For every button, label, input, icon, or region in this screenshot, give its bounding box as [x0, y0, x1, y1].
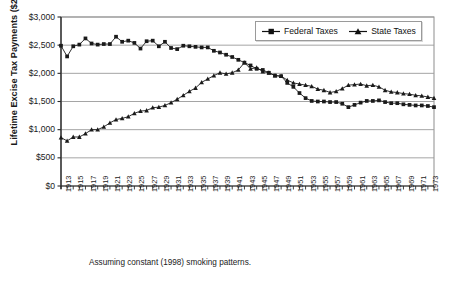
- x-axis-tick-label: 1939: [223, 176, 232, 192]
- x-axis-tick-label: 1919: [101, 176, 110, 192]
- legend-marker-square-icon: [261, 27, 281, 36]
- x-axis-tick-label: 1923: [125, 176, 134, 192]
- x-axis-tick-label: 1953: [309, 176, 318, 192]
- x-axis-tick-label: 1949: [284, 176, 293, 192]
- x-axis-tick-label: 1913: [64, 176, 73, 192]
- y-axis-tick-label: $2,500: [9, 40, 55, 50]
- chart-legend: Federal Taxes State Taxes: [255, 21, 422, 41]
- x-axis-tick-label: 1957: [333, 176, 342, 192]
- chart-caption: Assuming constant (1998) smoking pattern…: [0, 258, 340, 267]
- figure: Lifetime Excise Tax Payments ($2000) Fed…: [0, 0, 453, 281]
- x-axis-tick-label: 1927: [150, 176, 159, 192]
- x-axis-tick-label: 1929: [162, 176, 171, 192]
- x-axis-tick-label: 1937: [211, 176, 220, 192]
- x-axis-tick-label: 1933: [186, 176, 195, 192]
- x-axis-tick-label: 1925: [137, 176, 146, 192]
- legend-marker-triangle-icon: [348, 27, 368, 36]
- x-axis-tick-label: 1955: [321, 176, 330, 192]
- x-axis-tick-label: 1965: [382, 176, 391, 192]
- legend-item-federal-taxes: Federal Taxes: [261, 26, 338, 36]
- x-axis-tick-label: 1963: [370, 176, 379, 192]
- x-axis-tick-label: 1951: [296, 176, 305, 192]
- y-axis-tick-label: $1,000: [9, 124, 55, 134]
- x-axis-tick-label: 1931: [174, 176, 183, 192]
- y-axis-tick-label: $1,500: [9, 96, 55, 106]
- legend-label-state-taxes: State Taxes: [371, 26, 416, 36]
- chart-canvas: [0, 0, 453, 281]
- x-axis-tick-label: 1969: [407, 176, 416, 192]
- y-axis-tick-label: $3,000: [9, 12, 55, 22]
- x-axis-tick-label: 1917: [89, 176, 98, 192]
- legend-item-state-taxes: State Taxes: [348, 26, 416, 36]
- x-axis-tick-label: 1935: [199, 176, 208, 192]
- y-axis-tick-label: $2,000: [9, 68, 55, 78]
- x-axis-tick-label: 1945: [260, 176, 269, 192]
- y-axis-tick-label: $500: [9, 152, 55, 162]
- legend-label-federal-taxes: Federal Taxes: [284, 26, 338, 36]
- x-axis-tick-label: 1973: [431, 176, 440, 192]
- x-axis-tick-label: 1959: [345, 176, 354, 192]
- x-axis-tick-label: 1971: [419, 176, 428, 192]
- x-axis-tick-label: 1961: [358, 176, 367, 192]
- x-axis-tick-label: 1947: [272, 176, 281, 192]
- x-axis-tick-label: 1943: [248, 176, 257, 192]
- x-axis-tick-label: 1941: [235, 176, 244, 192]
- x-axis-tick-label: 1921: [113, 176, 122, 192]
- x-axis-tick-label: 1915: [76, 176, 85, 192]
- y-axis-tick-label: $0: [9, 181, 55, 191]
- x-axis-tick-label: 1967: [394, 176, 403, 192]
